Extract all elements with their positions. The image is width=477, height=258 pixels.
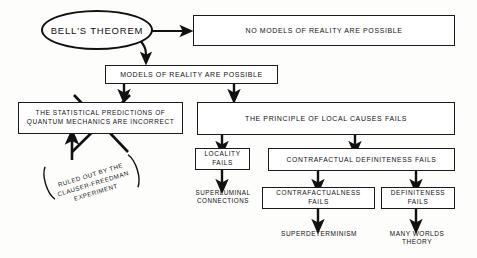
node-definiteness-fails-label: DEFINITENESS FAILS: [382, 189, 454, 207]
node-bells-theorem[interactable]: BELL'S THEOREM: [41, 10, 153, 50]
node-principle-of-local-causes-fails-label: THE PRINCIPLE OF LOCAL CAUSES FAILS: [198, 114, 454, 123]
node-many-worlds-theory[interactable]: MANY WORLDS THEORY: [375, 230, 459, 244]
node-superdeterminism-label: SUPERDETERMINISM: [278, 230, 360, 238]
node-superluminal-connections-label: SUPERLUMINAL CONNECTIONS: [188, 189, 258, 205]
node-no-models-of-reality[interactable]: NO MODELS OF REALITY ARE POSSIBLE: [193, 15, 455, 46]
node-superluminal-connections[interactable]: SUPERLUMINAL CONNECTIONS: [188, 189, 258, 213]
node-no-models-of-reality-label: NO MODELS OF REALITY ARE POSSIBLE: [194, 26, 454, 35]
node-statistical-predictions-incorrect[interactable]: THE STATISTICAL PREDICTIONS OF QUANTUM M…: [18, 102, 183, 134]
node-locality-fails[interactable]: LOCALITY FAILS: [195, 148, 250, 170]
node-locality-fails-label: LOCALITY FAILS: [196, 150, 249, 168]
node-models-of-reality-possible-label: MODELS OF REALITY ARE POSSIBLE: [106, 70, 277, 79]
node-principle-of-local-causes-fails[interactable]: THE PRINCIPLE OF LOCAL CAUSES FAILS: [197, 102, 455, 135]
node-contrafactual-definiteness-fails-label: CONTRAFACTUAL DEFINITENESS FAILS: [269, 155, 454, 164]
annotation-ruled-out-clauser-freedman: RULED OUT BY THE CLAUSER-FREEDMAN EXPERI…: [48, 151, 135, 209]
node-superdeterminism[interactable]: SUPERDETERMINISM: [278, 230, 360, 244]
node-contrafactualness-fails-label: CONTRAFACTUALNESS FAILS: [263, 189, 374, 207]
node-bells-theorem-label: BELL'S THEOREM: [51, 25, 144, 36]
node-statistical-predictions-incorrect-label: THE STATISTICAL PREDICTIONS OF QUANTUM M…: [19, 109, 182, 127]
node-definiteness-fails[interactable]: DEFINITENESS FAILS: [381, 187, 455, 209]
annotation-ruled-out-label: RULED OUT BY THE CLAUSER-FREEDMAN EXPERI…: [57, 162, 130, 202]
node-contrafactualness-fails[interactable]: CONTRAFACTUALNESS FAILS: [262, 187, 375, 209]
node-contrafactual-definiteness-fails[interactable]: CONTRAFACTUAL DEFINITENESS FAILS: [268, 148, 455, 171]
node-models-of-reality-possible[interactable]: MODELS OF REALITY ARE POSSIBLE: [105, 65, 278, 84]
node-many-worlds-theory-label: MANY WORLDS THEORY: [375, 230, 459, 247]
diagram-canvas: BELL'S THEOREM NO MODELS OF REALITY ARE …: [0, 0, 477, 258]
edge-root-to-models-possible: [140, 40, 146, 58]
